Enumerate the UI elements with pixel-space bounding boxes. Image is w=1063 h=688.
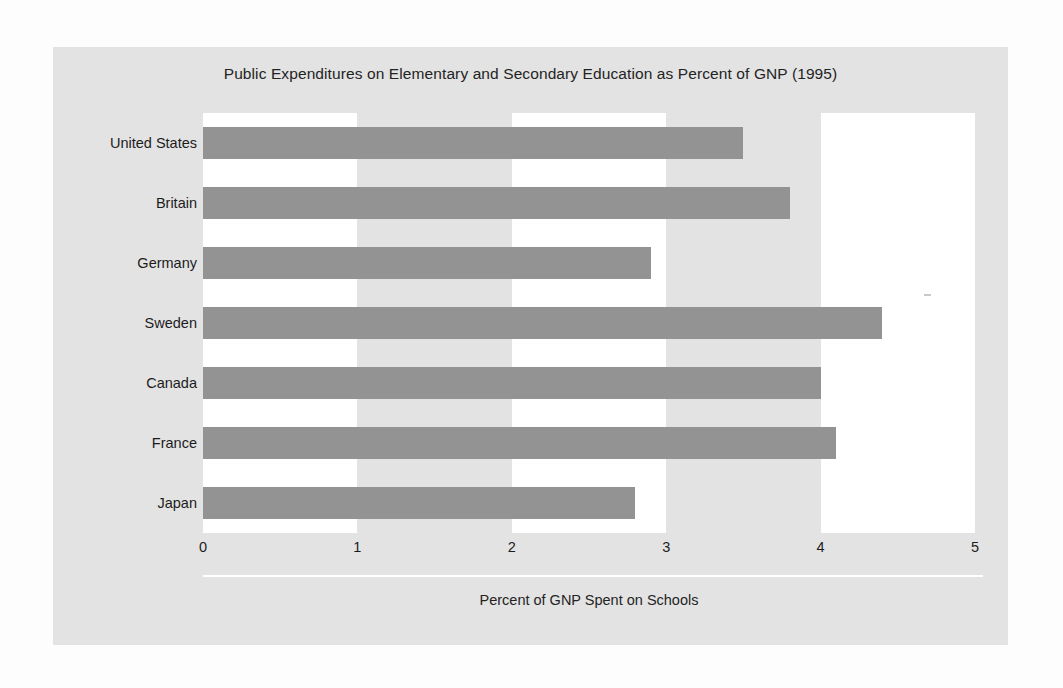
bar-canada xyxy=(203,367,821,399)
category-label-united-states: United States xyxy=(53,113,197,173)
category-label-canada: Canada xyxy=(53,353,197,413)
bar-row xyxy=(203,353,975,413)
category-label-germany: Germany xyxy=(53,233,197,293)
bar-united-states xyxy=(203,127,743,159)
x-tick-0: 0 xyxy=(199,539,207,555)
bar-row xyxy=(203,473,975,533)
bar-row xyxy=(203,233,975,293)
bar-row xyxy=(203,173,975,233)
x-tick-1: 1 xyxy=(353,539,361,555)
category-label-japan: Japan xyxy=(53,473,197,533)
x-tick-4: 4 xyxy=(817,539,825,555)
x-tick-3: 3 xyxy=(662,539,670,555)
category-axis-labels: United StatesBritainGermanySwedenCanadaF… xyxy=(53,113,197,533)
x-tick-2: 2 xyxy=(508,539,516,555)
bar-japan xyxy=(203,487,635,519)
plot-area xyxy=(203,113,975,533)
bar-germany xyxy=(203,247,651,279)
x-tick-5: 5 xyxy=(971,539,979,555)
chart-panel: Public Expenditures on Elementary and Se… xyxy=(53,47,1008,645)
x-axis-tick-labels: 012345 xyxy=(203,539,975,563)
category-label-sweden: Sweden xyxy=(53,293,197,353)
bar-britain xyxy=(203,187,790,219)
axis-rule xyxy=(203,575,983,577)
bar-row xyxy=(203,293,975,353)
x-axis-title: Percent of GNP Spent on Schools xyxy=(203,592,975,608)
category-label-britain: Britain xyxy=(53,173,197,233)
scan-artifact-speck xyxy=(924,294,931,296)
bar-france xyxy=(203,427,836,459)
bar-row xyxy=(203,113,975,173)
chart-title: Public Expenditures on Elementary and Se… xyxy=(53,65,1008,83)
bar-sweden xyxy=(203,307,882,339)
category-label-france: France xyxy=(53,413,197,473)
bars-layer xyxy=(203,113,975,533)
bar-row xyxy=(203,413,975,473)
